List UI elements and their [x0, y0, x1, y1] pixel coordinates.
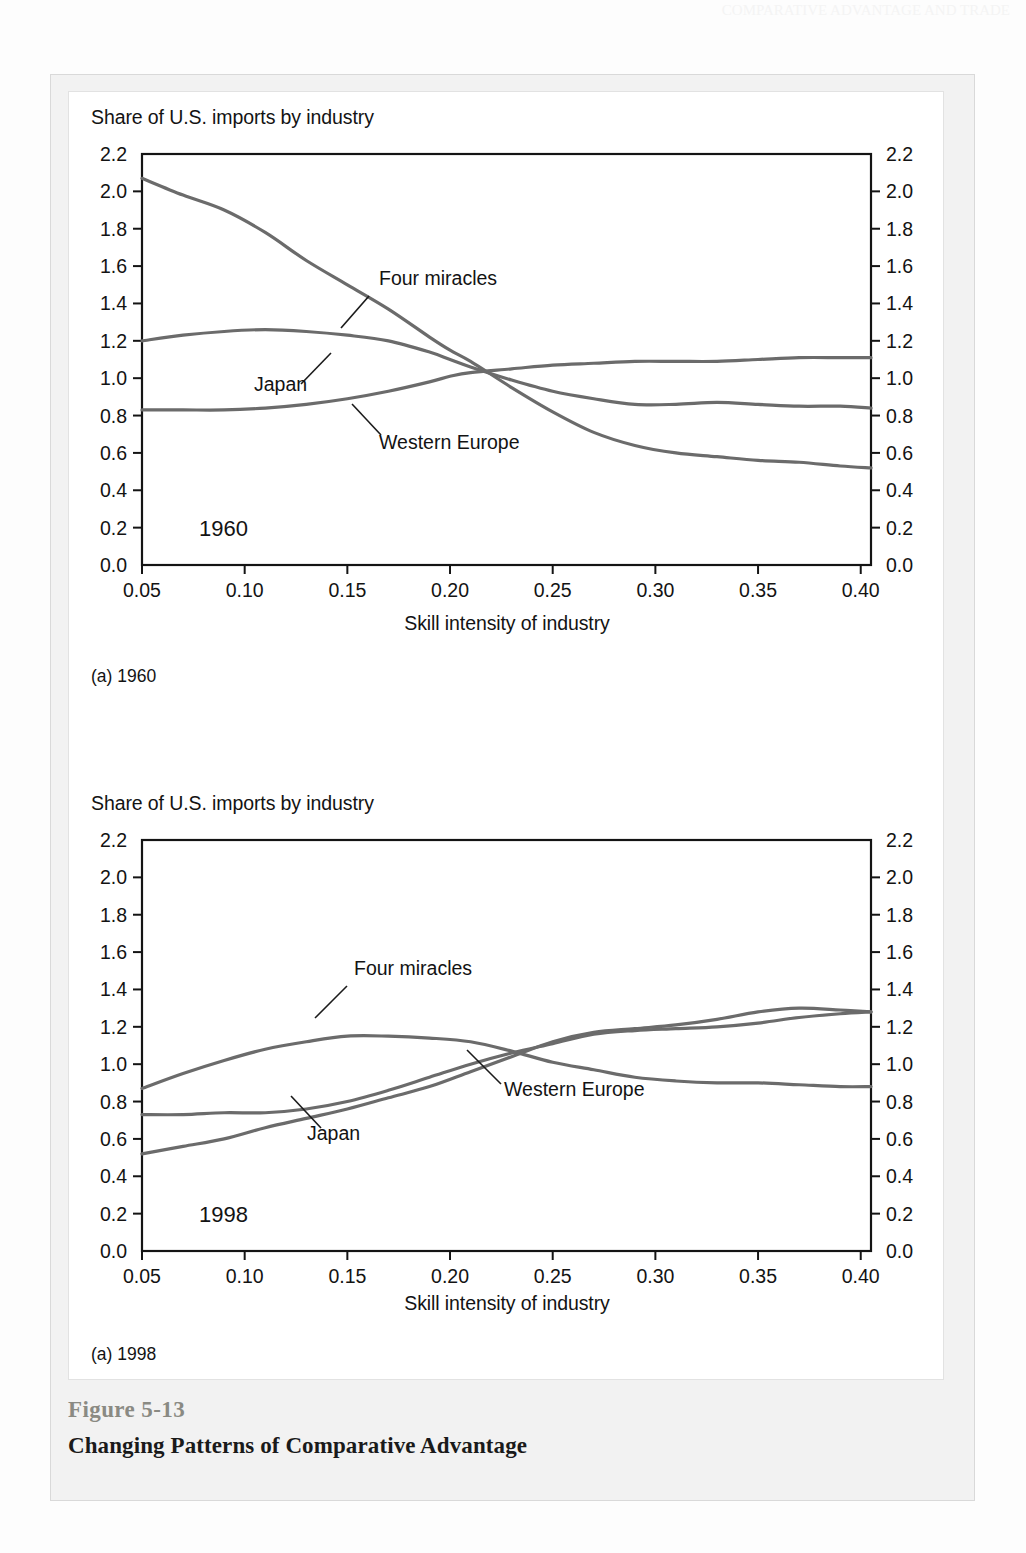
y-tick-label-left: 1.8: [100, 218, 127, 240]
chart1-plot-area: 0.00.00.20.20.40.40.60.60.80.81.01.01.21…: [69, 142, 945, 612]
y-tick-label-left: 1.6: [100, 941, 127, 963]
y-tick-label-right: 0.2: [886, 1203, 913, 1225]
y-tick-label-right: 2.2: [886, 829, 913, 851]
y-tick-label-right: 1.2: [886, 1016, 913, 1038]
y-tick-label-right: 1.8: [886, 218, 913, 240]
x-tick-label: 0.40: [842, 1265, 880, 1287]
y-tick-label-right: 2.2: [886, 143, 913, 165]
chart2-subcaption: (a) 1998: [91, 1344, 156, 1365]
x-tick-label: 0.15: [328, 579, 366, 601]
year-annotation: 1960: [199, 516, 248, 541]
y-tick-label-left: 0.6: [100, 442, 127, 464]
series-label-four_miracles: Four miracles: [354, 957, 472, 979]
series-label-japan: Japan: [254, 373, 307, 395]
y-tick-label-right: 0.6: [886, 1128, 913, 1150]
y-tick-label-right: 1.4: [886, 292, 913, 314]
y-tick-label-right: 1.6: [886, 255, 913, 277]
chart1-y-axis-title: Share of U.S. imports by industry: [91, 106, 374, 129]
y-tick-label-left: 0.8: [100, 405, 127, 427]
series-leader-line: [467, 1050, 501, 1084]
y-tick-label-right: 1.4: [886, 978, 913, 1000]
x-tick-label: 0.30: [636, 579, 674, 601]
y-tick-label-left: 2.2: [100, 829, 127, 851]
y-tick-label-right: 1.8: [886, 904, 913, 926]
chart1-x-axis-title: Skill intensity of industry: [69, 612, 961, 635]
x-tick-label: 0.35: [739, 579, 777, 601]
y-tick-label-left: 0.6: [100, 1128, 127, 1150]
chart2-svg: 0.00.00.20.20.40.40.60.60.80.81.01.01.21…: [69, 828, 945, 1298]
x-tick-label: 0.25: [534, 579, 572, 601]
y-tick-label-right: 0.6: [886, 442, 913, 464]
y-tick-label-left: 1.0: [100, 1053, 127, 1075]
y-tick-label-right: 0.8: [886, 405, 913, 427]
series-label-japan: Japan: [307, 1122, 360, 1144]
series-leader-line: [352, 404, 381, 435]
y-tick-label-right: 1.0: [886, 367, 913, 389]
y-tick-label-left: 0.8: [100, 1091, 127, 1113]
y-tick-label-right: 0.2: [886, 517, 913, 539]
y-tick-label-right: 0.4: [886, 479, 913, 501]
y-tick-label-left: 0.2: [100, 1203, 127, 1225]
y-tick-label-left: 2.2: [100, 143, 127, 165]
x-tick-label: 0.10: [226, 1265, 264, 1287]
y-tick-label-left: 1.4: [100, 978, 127, 1000]
y-tick-label-left: 0.0: [100, 554, 127, 576]
x-tick-label: 0.05: [123, 579, 161, 601]
y-tick-label-left: 2.0: [100, 180, 127, 202]
series-label-western_europe: Western Europe: [504, 1078, 645, 1100]
y-tick-label-left: 1.6: [100, 255, 127, 277]
series-leader-line: [341, 296, 369, 328]
x-tick-label: 0.35: [739, 1265, 777, 1287]
y-tick-label-left: 0.4: [100, 479, 127, 501]
series-label-western_europe: Western Europe: [379, 431, 520, 453]
y-tick-label-left: 0.4: [100, 1165, 127, 1187]
chart-panel-1960: Share of U.S. imports by industry 0.00.0…: [69, 106, 945, 726]
y-tick-label-right: 1.0: [886, 1053, 913, 1075]
x-tick-label: 0.20: [431, 1265, 469, 1287]
y-tick-label-right: 2.0: [886, 180, 913, 202]
y-tick-label-right: 1.2: [886, 330, 913, 352]
figure-caption: Figure 5-13 Changing Patterns of Compara…: [68, 1397, 944, 1459]
x-tick-label: 0.30: [636, 1265, 674, 1287]
x-tick-label: 0.15: [328, 1265, 366, 1287]
y-tick-label-right: 0.4: [886, 1165, 913, 1187]
y-tick-label-left: 1.8: [100, 904, 127, 926]
y-tick-label-left: 1.2: [100, 1016, 127, 1038]
chart1-subcaption: (a) 1960: [91, 666, 156, 687]
chart2-x-axis-title: Skill intensity of industry: [69, 1292, 961, 1315]
y-tick-label-right: 0.0: [886, 554, 913, 576]
year-annotation: 1998: [199, 1202, 248, 1227]
x-tick-label: 0.20: [431, 579, 469, 601]
figure-panel: Share of U.S. imports by industry 0.00.0…: [50, 74, 975, 1501]
chart1-svg: 0.00.00.20.20.40.40.60.60.80.81.01.01.21…: [69, 142, 945, 612]
series-line: [142, 178, 871, 468]
x-tick-label: 0.05: [123, 1265, 161, 1287]
x-tick-label: 0.40: [842, 579, 880, 601]
charts-card: Share of U.S. imports by industry 0.00.0…: [68, 91, 944, 1380]
chart-panel-1998: Share of U.S. imports by industry 0.00.0…: [69, 792, 945, 1392]
y-tick-label-right: 2.0: [886, 866, 913, 888]
y-tick-label-left: 0.0: [100, 1240, 127, 1262]
y-tick-label-left: 1.0: [100, 367, 127, 389]
figure-title: Changing Patterns of Comparative Advanta…: [68, 1433, 944, 1459]
y-tick-label-left: 1.4: [100, 292, 127, 314]
y-tick-label-right: 1.6: [886, 941, 913, 963]
figure-number: Figure 5-13: [68, 1397, 944, 1423]
chart2-y-axis-title: Share of U.S. imports by industry: [91, 792, 374, 815]
chart2-plot-area: 0.00.00.20.20.40.40.60.60.80.81.01.01.21…: [69, 828, 945, 1298]
page-header-ghost: COMPARATIVE ADVANTAGE AND TRADE: [250, 2, 1010, 18]
series-label-four_miracles: Four miracles: [379, 267, 497, 289]
y-tick-label-right: 0.0: [886, 1240, 913, 1262]
y-tick-label-right: 0.8: [886, 1091, 913, 1113]
series-leader-line: [315, 986, 347, 1018]
x-tick-label: 0.10: [226, 579, 264, 601]
x-tick-label: 0.25: [534, 1265, 572, 1287]
y-tick-label-left: 2.0: [100, 866, 127, 888]
y-tick-label-left: 1.2: [100, 330, 127, 352]
y-tick-label-left: 0.2: [100, 517, 127, 539]
